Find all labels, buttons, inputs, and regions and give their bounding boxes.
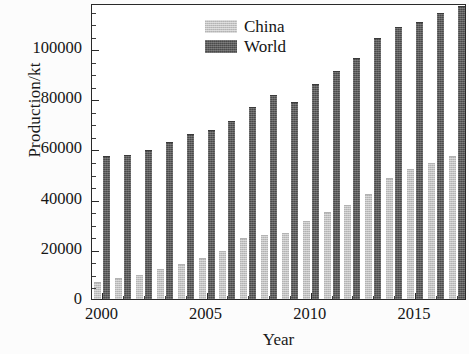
bar-group xyxy=(157,5,174,299)
plot-area: China World xyxy=(91,4,466,300)
bar-world xyxy=(458,6,465,299)
bar-world xyxy=(374,38,381,299)
bar-world xyxy=(333,71,340,299)
bar-world xyxy=(437,13,444,299)
bar-world xyxy=(416,22,423,299)
x-tick-label: 2005 xyxy=(176,304,236,324)
y-tick-minor xyxy=(92,263,96,264)
bar-group xyxy=(428,5,445,299)
y-tick xyxy=(92,50,99,51)
bar-china xyxy=(178,264,185,299)
x-tick-label: 2015 xyxy=(384,304,444,324)
y-tick-label: 0 xyxy=(0,289,82,309)
x-tick-minor xyxy=(332,296,333,299)
y-tick-minor xyxy=(92,276,96,277)
x-tick xyxy=(102,293,103,299)
x-tick-minor xyxy=(290,296,291,299)
y-tick xyxy=(92,201,99,202)
legend-item-world: World xyxy=(205,38,286,55)
y-tick-label: 40000 xyxy=(0,189,82,209)
bar-china xyxy=(303,221,310,299)
bar-world xyxy=(249,107,256,299)
bar-china xyxy=(261,235,268,299)
x-tick-minor xyxy=(352,296,353,299)
bar-group xyxy=(365,5,382,299)
bar-world xyxy=(312,84,319,299)
x-axis-title: Year xyxy=(91,330,466,350)
bar-group xyxy=(324,5,341,299)
bar-world xyxy=(270,95,277,299)
x-tick-minor xyxy=(457,296,458,299)
y-tick-minor xyxy=(92,238,96,239)
bar-group xyxy=(449,5,466,299)
bar-china xyxy=(157,269,164,299)
bar-group xyxy=(303,5,320,299)
y-tick-minor xyxy=(92,25,96,26)
bar-world xyxy=(187,134,194,299)
bar-group xyxy=(386,5,403,299)
bar-group xyxy=(115,5,132,299)
chart-figure: Production/kt China World 02000040000600… xyxy=(0,0,469,354)
bar-china xyxy=(386,178,393,299)
x-tick-minor xyxy=(394,296,395,299)
bar-china xyxy=(344,205,351,299)
x-tick-label: 2000 xyxy=(71,304,131,324)
y-tick xyxy=(92,150,99,151)
bar-world xyxy=(145,150,152,299)
bar-china xyxy=(115,278,122,299)
chart-legend: China World xyxy=(205,18,286,55)
x-tick-minor xyxy=(269,296,270,299)
x-tick xyxy=(415,293,416,299)
y-tick-minor xyxy=(92,63,96,64)
legend-item-china: China xyxy=(205,18,286,35)
legend-label-china: China xyxy=(244,18,285,35)
x-tick-minor xyxy=(248,296,249,299)
x-tick-minor xyxy=(436,296,437,299)
y-tick-minor xyxy=(92,113,96,114)
bar-china xyxy=(407,169,414,299)
x-tick-minor xyxy=(165,296,166,299)
x-tick xyxy=(311,293,312,299)
y-tick-minor xyxy=(92,38,96,39)
y-tick-minor xyxy=(92,176,96,177)
y-tick xyxy=(92,251,99,252)
bar-china xyxy=(199,258,206,299)
y-tick-minor xyxy=(92,226,96,227)
bar-world xyxy=(103,156,110,299)
legend-swatch-world xyxy=(205,40,237,53)
bar-group xyxy=(178,5,195,299)
bar-china xyxy=(219,251,226,299)
y-tick-label: 100000 xyxy=(0,38,82,58)
y-tick-minor xyxy=(92,13,96,14)
x-tick-minor xyxy=(186,296,187,299)
y-tick-minor xyxy=(92,288,96,289)
bar-world xyxy=(228,121,235,299)
bar-world xyxy=(208,130,215,299)
bar-china xyxy=(136,275,143,299)
y-tick-minor xyxy=(92,188,96,189)
x-tick-minor xyxy=(373,296,374,299)
bar-china xyxy=(449,156,456,299)
y-tick-minor xyxy=(92,213,96,214)
bar-world xyxy=(166,142,173,299)
bar-china xyxy=(282,233,289,299)
bar-world xyxy=(395,27,402,299)
bar-group xyxy=(136,5,153,299)
x-tick-minor xyxy=(144,296,145,299)
bar-china xyxy=(428,163,435,299)
y-tick-minor xyxy=(92,125,96,126)
bar-china xyxy=(94,282,101,299)
y-tick-minor xyxy=(92,163,96,164)
legend-swatch-china xyxy=(205,20,237,33)
bar-group xyxy=(407,5,424,299)
y-tick-label: 20000 xyxy=(0,239,82,259)
y-tick-label: 60000 xyxy=(0,138,82,158)
bar-world xyxy=(124,155,131,299)
bar-world xyxy=(353,58,360,299)
bar-group xyxy=(344,5,361,299)
bar-china xyxy=(365,194,372,299)
x-tick xyxy=(207,293,208,299)
y-tick xyxy=(92,100,99,101)
x-tick-minor xyxy=(227,296,228,299)
y-tick-minor xyxy=(92,138,96,139)
